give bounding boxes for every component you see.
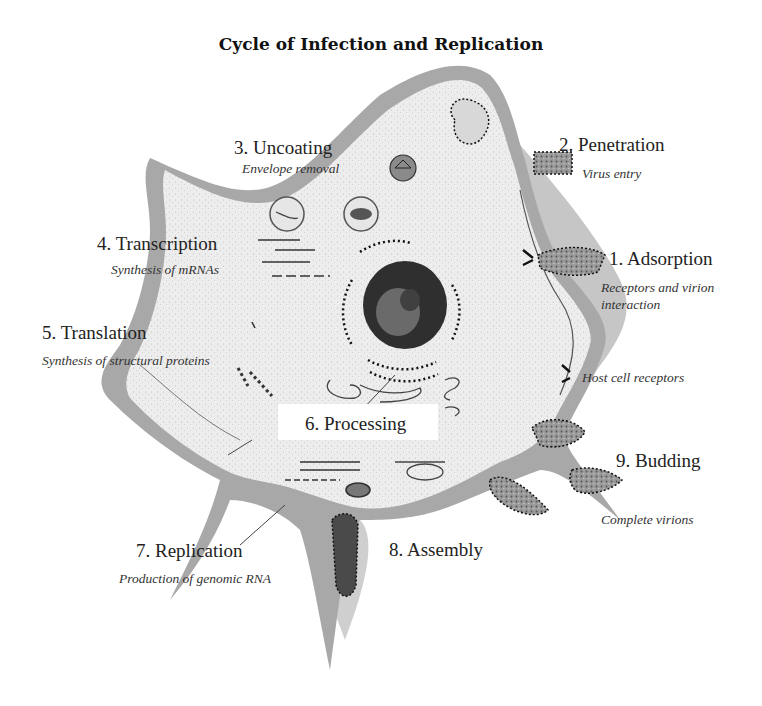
step-1-label: 1. Adsorption xyxy=(609,249,712,269)
step-5-label: 5. Translation xyxy=(42,323,147,343)
step-7-label: 7. Replication xyxy=(136,541,243,561)
step-2-label: 2. Penetration xyxy=(559,135,665,155)
host-cell-receptors-label: Host cell receptors xyxy=(582,369,684,386)
step-1-description-line2: interaction xyxy=(601,296,660,313)
step-1-description-line1: Receptors and virion xyxy=(601,279,714,296)
step-9-description: Complete virions xyxy=(601,511,694,528)
step-7-description: Production of genomic RNA xyxy=(119,570,271,587)
step-6-label: 6. Processing xyxy=(305,414,406,434)
step-4-label: 4. Transcription xyxy=(97,234,217,254)
step-4-description: Synthesis of mRNAs xyxy=(111,261,219,278)
step-5-description: Synthesis of structural proteins xyxy=(42,352,210,369)
step-2-description: Virus entry xyxy=(582,165,641,182)
nucleus xyxy=(363,261,447,349)
step-3-label: 3. Uncoating xyxy=(234,138,332,158)
step-9-label: 9. Budding xyxy=(616,451,700,471)
step-8-label: 8. Assembly xyxy=(389,540,483,560)
step-3-description: Envelope removal xyxy=(242,160,339,177)
